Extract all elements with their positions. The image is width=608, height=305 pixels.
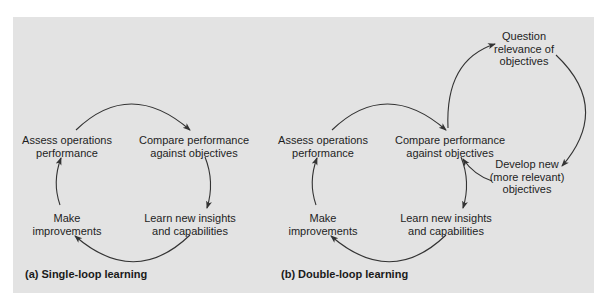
arrow-make-to-assess-b xyxy=(312,158,317,205)
node-learn-insights-b: Learn new insights and capabilities xyxy=(400,212,492,237)
caption-single-loop: (a) Single-loop learning xyxy=(25,268,147,280)
node-text: Develop new xyxy=(490,158,565,171)
node-assess-operations-b: Assess operations performance xyxy=(278,134,368,159)
node-text: and capabilities xyxy=(400,225,492,238)
node-text: objectives xyxy=(490,183,565,196)
arrow-compare-to-question xyxy=(448,44,495,128)
node-make-improvements-b: Make improvements xyxy=(288,212,357,237)
arrow-question-to-develop xyxy=(556,55,586,166)
node-text: Make xyxy=(288,212,357,225)
node-text: Learn new insights xyxy=(144,212,236,225)
node-text: performance xyxy=(278,147,368,160)
node-compare-performance: Compare performance against objectives xyxy=(139,134,249,159)
node-text: Assess operations xyxy=(22,134,112,147)
node-text: Compare performance xyxy=(395,134,505,147)
node-learn-insights: Learn new insights and capabilities xyxy=(144,212,236,237)
node-text: Assess operations xyxy=(278,134,368,147)
node-text: performance xyxy=(22,147,112,160)
node-text: objectives xyxy=(494,55,554,68)
arrow-learn-to-make xyxy=(75,235,190,262)
arrow-learn-to-make-b xyxy=(331,235,446,262)
node-question-relevance: Question relevance of objectives xyxy=(494,30,554,68)
node-text: and capabilities xyxy=(144,225,236,238)
arrow-assess-to-compare-b xyxy=(332,104,446,130)
node-assess-operations: Assess operations performance xyxy=(22,134,112,159)
node-develop-new-objectives: Develop new (more relevant) objectives xyxy=(490,158,565,196)
node-text: (more relevant) xyxy=(490,171,565,184)
node-make-improvements: Make improvements xyxy=(32,212,101,237)
node-text: improvements xyxy=(32,225,101,238)
arrow-make-to-assess xyxy=(56,158,61,205)
node-text: Learn new insights xyxy=(400,212,492,225)
caption-double-loop: (b) Double-loop learning xyxy=(281,268,408,280)
node-text: Question xyxy=(494,30,554,43)
arrow-develop-to-compare xyxy=(463,159,492,181)
node-text: against objectives xyxy=(139,147,249,160)
arrow-assess-to-compare xyxy=(76,104,190,130)
arrow-compare-to-learn xyxy=(205,157,211,208)
node-text: Make xyxy=(32,212,101,225)
node-text: improvements xyxy=(288,225,357,238)
node-compare-performance-b: Compare performance against objectives xyxy=(395,134,505,159)
node-text: relevance of xyxy=(494,43,554,56)
arrow-compare-to-learn-b xyxy=(461,157,467,208)
node-text: Compare performance xyxy=(139,134,249,147)
node-text: against objectives xyxy=(395,147,505,160)
